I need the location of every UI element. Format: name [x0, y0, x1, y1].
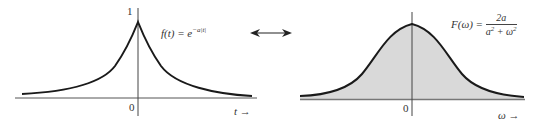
denominator-plus-omega: + ω: [494, 26, 513, 37]
frequency-function-lhs: F(ω) =: [451, 18, 483, 30]
fraction: 2a a2 + ω2: [486, 13, 517, 37]
transform-double-arrow: [250, 29, 292, 37]
t-variable: t: [234, 105, 237, 117]
omega-variable: ω: [498, 109, 506, 121]
left-time-domain-plot: [15, 8, 257, 116]
left-x-axis-label: t →: [234, 106, 251, 117]
y-tick-1-label: 1: [127, 6, 133, 17]
exponent-2: 2: [513, 25, 517, 33]
arrow-right-icon: →: [509, 109, 520, 121]
fraction-denominator: a2 + ω2: [486, 25, 517, 37]
exponential-decay-curve: [22, 22, 252, 96]
right-origin-label: 0: [403, 103, 409, 114]
time-function-base: f(t) = e: [161, 27, 192, 39]
frequency-function-formula: F(ω) = 2a a2 + ω2: [451, 13, 517, 37]
left-origin-label: 0: [129, 102, 135, 113]
right-x-axis-label: ω →: [498, 110, 520, 121]
arrow-right-icon: →: [240, 105, 251, 117]
time-function-exponent: −a|t|: [192, 26, 206, 34]
time-function-formula: f(t) = e−a|t|: [161, 27, 206, 39]
fraction-numerator: 2a: [486, 13, 517, 25]
